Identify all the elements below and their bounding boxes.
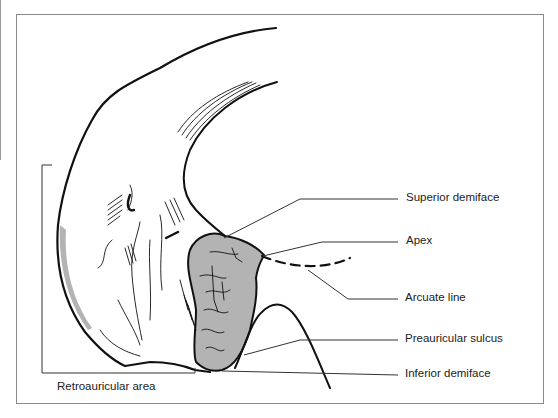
label-superior-demiface: Superior demiface (406, 191, 499, 203)
leader-preauricular-sulcus (244, 340, 398, 355)
ilium-illustration (0, 0, 558, 418)
label-apex: Apex (406, 234, 432, 246)
leader-superior-demiface (224, 199, 398, 238)
auricular-surface (188, 234, 264, 371)
arcuate-line-dashed (262, 256, 350, 266)
label-retroauricular-area: Retroauricular area (57, 380, 155, 392)
sciatic-notch-rim (184, 82, 277, 236)
label-preauricular-sulcus: Preauricular sulcus (405, 332, 503, 344)
leader-inferior-demiface (222, 371, 398, 375)
label-arcuate-line: Arcuate line (405, 291, 466, 303)
leader-arcuate-line (308, 270, 398, 299)
leader-apex (263, 242, 398, 256)
label-inferior-demiface: Inferior demiface (405, 367, 491, 379)
